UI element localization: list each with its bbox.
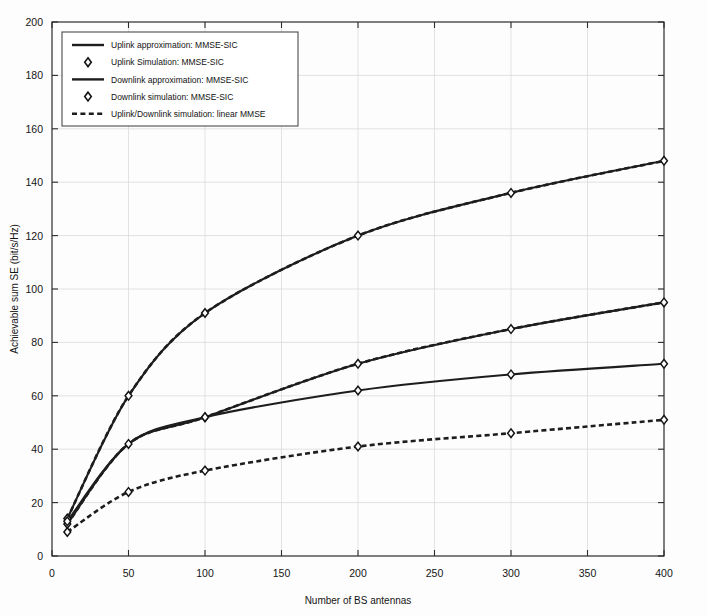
y-tick-label: 60 [31, 390, 43, 402]
chart-legend: Uplink approximation: MMSE-SICUplink Sim… [62, 32, 298, 126]
x-tick-label: 0 [49, 567, 55, 579]
x-tick-label: 300 [502, 567, 520, 579]
y-tick-label: 80 [31, 336, 43, 348]
legend-label: Downlink simulation: MMSE-SIC [111, 92, 233, 102]
y-tick-label: 200 [25, 16, 43, 28]
y-tick-label: 180 [25, 69, 43, 81]
y-tick-label: 100 [25, 283, 43, 295]
legend-label: Uplink/Downlink simulation: linear MMSE [111, 109, 266, 119]
y-tick-label: 0 [37, 550, 43, 562]
y-tick-label: 160 [25, 123, 43, 135]
x-tick-label: 150 [273, 567, 291, 579]
x-tick-label: 50 [123, 567, 135, 579]
y-tick-label: 40 [31, 443, 43, 455]
y-tick-label: 140 [25, 176, 43, 188]
x-tick-label: 350 [579, 567, 597, 579]
chart-figure: 050100150200250300350400 020406080100120… [0, 0, 707, 616]
x-tick-label: 100 [196, 567, 214, 579]
x-axis-label: Number of BS antennas [305, 595, 412, 606]
legend-label: Uplink approximation: MMSE-SIC [111, 40, 238, 50]
achievable-sum-se-line-chart: 050100150200250300350400 020406080100120… [0, 0, 707, 616]
x-tick-label: 400 [655, 567, 673, 579]
y-axis-label: Achievable sum SE (bit/s/Hz) [9, 224, 20, 354]
x-tick-label: 200 [349, 567, 367, 579]
y-tick-label: 20 [31, 497, 43, 509]
y-tick-label: 120 [25, 230, 43, 242]
legend-label: Downlink approximation: MMSE-SIC [111, 75, 248, 85]
x-tick-label: 250 [426, 567, 444, 579]
legend-label: Uplink Simulation: MMSE-SIC [111, 57, 224, 67]
